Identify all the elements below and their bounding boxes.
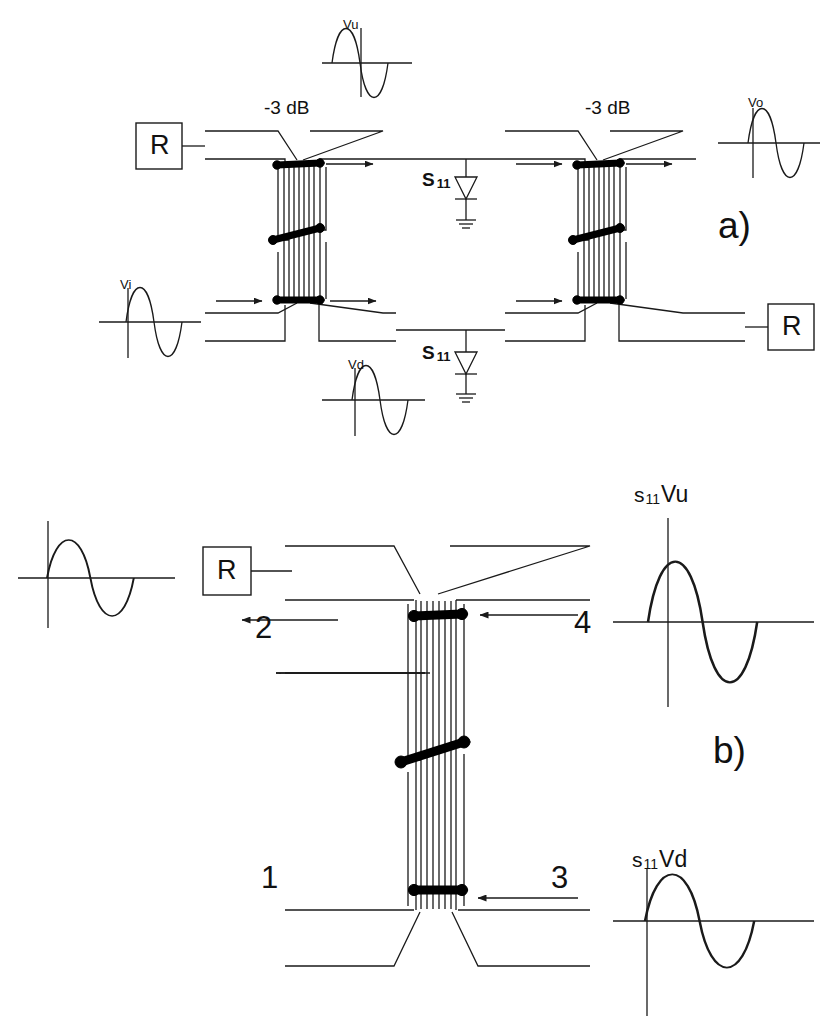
port-3-label: 3	[551, 862, 568, 893]
panel-b-terminator-label: R	[217, 557, 237, 584]
waveform-s11vu	[613, 518, 814, 707]
waveform-vo	[718, 108, 820, 178]
waveform-vu	[322, 28, 412, 98]
diode-top-s11-symbol: S	[422, 169, 435, 190]
waveform-s11vu-label: s11Vu	[634, 483, 688, 506]
panel-a-diode-top	[396, 159, 505, 228]
waveform-vi-label: Vi	[120, 278, 131, 291]
circuit-drawing	[0, 0, 837, 1029]
panel-b-label: b)	[713, 732, 746, 769]
diode-bottom-s11-label: S11	[422, 343, 450, 362]
waveform-vd-label: Vd	[348, 358, 364, 371]
panel-a-terminator-left-label: R	[150, 132, 170, 159]
panel-a-terminator-right-box	[745, 304, 814, 350]
s11vd-prefix: s	[632, 848, 643, 871]
port-4-label: 4	[574, 607, 591, 638]
port-1-label: 1	[261, 862, 278, 893]
figure-canvas: Vu Vo Vi Vd -3 dB -3 dB R R S11 S11 a) R…	[0, 0, 837, 1029]
waveform-b-input	[18, 521, 175, 628]
diode-top-s11-subscript: 11	[435, 176, 451, 191]
s11vd-variable: Vd	[659, 846, 687, 872]
s11vu-variable: Vu	[661, 481, 688, 507]
diode-top-s11-label: S11	[422, 170, 450, 189]
waveform-vd	[322, 366, 425, 437]
coupler-left-db-label: -3 dB	[264, 98, 309, 117]
panel-a-diode-bottom	[396, 330, 505, 402]
diode-bottom-s11-symbol: S	[422, 342, 435, 363]
diode-bottom-s11-subscript: 11	[435, 349, 451, 364]
waveform-s11vd-label: s11Vd	[632, 848, 687, 871]
panel-a-terminator-left-box	[136, 123, 205, 169]
waveform-vo-label: Vo	[748, 96, 763, 109]
waveform-vi	[99, 288, 201, 359]
coupler-right-db-label: -3 dB	[585, 98, 630, 117]
bond-wires	[269, 159, 625, 896]
port-2-label: 2	[255, 612, 272, 643]
panel-a-terminator-right-label: R	[782, 313, 802, 340]
s11vd-subscript: 11	[643, 856, 660, 872]
waveform-vu-label: Vu	[343, 18, 358, 31]
waveform-s11vd	[613, 869, 814, 1016]
s11vu-subscript: 11	[645, 491, 662, 507]
panel-a-label: a)	[718, 207, 751, 244]
s11vu-prefix: s	[634, 483, 645, 506]
